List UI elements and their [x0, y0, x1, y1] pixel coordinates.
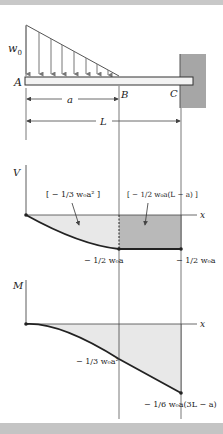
shear-area-left-label: [ − 1/3 w₀a² ]	[46, 190, 100, 199]
shear-diagram	[24, 165, 197, 251]
point-b-label: B	[120, 89, 128, 100]
moment-x-label: x	[200, 319, 205, 329]
dimension-L-label: L	[99, 116, 107, 127]
shear-x-label: x	[200, 210, 205, 220]
shear-value-b: − 1/2 w₀a	[84, 256, 124, 265]
shear-value-c: − 1/2 w₀a	[176, 256, 216, 265]
dimension-a-label: a	[67, 94, 73, 105]
bottom-border-band	[0, 423, 223, 434]
shear-area-right-label: [ − 1/2 w₀a(L − a) ]	[127, 190, 198, 199]
load-arrows	[26, 26, 108, 75]
distributed-load	[26, 25, 119, 76]
load-label: w0	[8, 42, 22, 57]
moment-value-b: − 1/3 w₀a²	[76, 357, 119, 366]
moment-value-c: − 1/6 w₀a(3L − a)	[144, 400, 217, 409]
point-a-label: A	[13, 76, 22, 89]
moment-diagram	[24, 280, 197, 395]
beam	[25, 77, 193, 85]
beam-diagram-figure: w0 A B C a L V x [ − 1/3 w₀a² ] [ −	[0, 0, 223, 434]
point-c-label: C	[170, 88, 178, 99]
moment-axis-label: M	[12, 280, 24, 291]
shear-axis-label: V	[13, 167, 22, 178]
